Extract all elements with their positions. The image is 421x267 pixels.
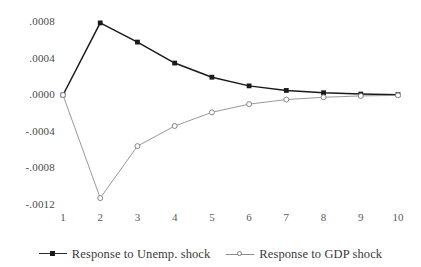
data-point-marker [396, 93, 401, 98]
data-point-marker [98, 196, 103, 201]
legend-swatch-gdp-shock [226, 249, 254, 259]
data-point-marker [172, 61, 177, 66]
data-point-marker [61, 93, 66, 98]
chart-legend: Response to Unemp. shock Response to GDP… [0, 243, 421, 265]
x-axis-tick-label: 3 [126, 211, 148, 223]
y-axis-tick-label: .0004 [3, 52, 55, 64]
y-axis-tick-label: .0000 [3, 88, 55, 100]
legend-open-circle-icon [237, 251, 242, 256]
series-unemp-shock [61, 21, 401, 98]
data-point-marker [172, 124, 177, 129]
data-point-marker [284, 88, 289, 93]
x-axis-tick-label: 9 [350, 211, 372, 223]
x-axis-tick-label: 5 [201, 211, 223, 223]
y-axis-tick-label: -.0008 [3, 161, 55, 173]
series-line [63, 23, 398, 95]
y-axis-tick-label: .0008 [3, 15, 55, 27]
x-axis-tick-label: 6 [238, 211, 260, 223]
impulse-response-chart: .0008.0004.0000-.0004-.0008-.0012 123456… [0, 0, 421, 267]
data-point-marker [209, 110, 214, 115]
series-line [63, 95, 398, 198]
data-point-marker [247, 102, 252, 107]
legend-item-gdp-shock: Response to GDP shock [226, 247, 382, 262]
y-axis-tick-label: -.0012 [3, 198, 55, 210]
x-axis-tick-label: 10 [387, 211, 409, 223]
x-axis-tick-label: 2 [89, 211, 111, 223]
data-point-marker [247, 83, 252, 88]
data-point-marker [135, 144, 140, 149]
data-point-marker [135, 40, 140, 45]
data-point-marker [98, 21, 103, 26]
y-axis-tick-label: -.0004 [3, 125, 55, 137]
x-axis-tick-label: 4 [164, 211, 186, 223]
legend-swatch-unemp-shock [39, 249, 67, 259]
x-axis-tick-label: 7 [275, 211, 297, 223]
data-point-marker [321, 95, 326, 100]
legend-filled-square-icon [50, 251, 55, 256]
plot-area [0, 0, 421, 267]
series-gdp-shock [61, 93, 401, 201]
x-axis-tick-label: 8 [313, 211, 335, 223]
data-point-marker [209, 75, 214, 80]
data-point-marker [284, 97, 289, 102]
x-axis-tick-label: 1 [52, 211, 74, 223]
legend-label-unemp-shock: Response to Unemp. shock [72, 247, 211, 262]
legend-item-unemp-shock: Response to Unemp. shock [39, 247, 211, 262]
data-point-marker [358, 93, 363, 98]
legend-label-gdp-shock: Response to GDP shock [259, 247, 382, 262]
